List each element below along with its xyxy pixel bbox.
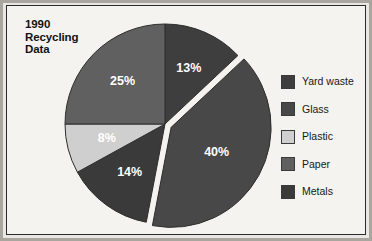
legend-swatch-icon	[281, 75, 295, 89]
legend-item[interactable]: Metals	[281, 178, 371, 206]
legend-swatch-icon	[281, 157, 295, 171]
legend-item-label: Paper	[302, 159, 330, 170]
chart-screenshot: 1990 Recycling Data 13%40%14%8%25% Yard …	[0, 0, 372, 241]
legend-item-label: Metals	[302, 186, 333, 197]
pie-slices	[65, 24, 271, 227]
pie-chart-svg: 13%40%14%8%25%	[59, 16, 277, 238]
pie-slice-label: 40%	[204, 145, 229, 159]
legend-item-label: Yard waste	[302, 76, 354, 87]
pie-slice-label: 14%	[117, 165, 142, 179]
legend-item[interactable]: Plastic	[281, 123, 371, 151]
pie-slice-label: 8%	[98, 131, 116, 145]
pie-slice-label: 13%	[176, 61, 201, 75]
legend-item[interactable]: Paper	[281, 151, 371, 179]
pie-chart: 13%40%14%8%25%	[59, 16, 277, 238]
legend-item-label: Glass	[302, 104, 329, 115]
page-title: 1990 Recycling Data	[25, 18, 78, 56]
legend-item[interactable]: Glass	[281, 96, 371, 124]
legend: Yard wasteGlassPlasticPaperMetals	[281, 68, 371, 206]
legend-swatch-icon	[281, 130, 295, 144]
legend-swatch-icon	[281, 102, 295, 116]
chart-frame: 1990 Recycling Data 13%40%14%8%25% Yard …	[6, 5, 366, 235]
legend-item[interactable]: Yard waste	[281, 68, 371, 96]
legend-item-label: Plastic	[302, 131, 333, 142]
legend-swatch-icon	[281, 185, 295, 199]
pie-slice-label: 25%	[110, 74, 135, 88]
